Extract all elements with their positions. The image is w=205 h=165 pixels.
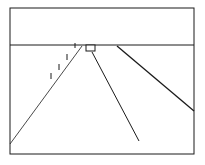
right-road-edge [117, 46, 194, 111]
center-road-line [92, 52, 139, 141]
frame [10, 8, 194, 154]
road-scene-diagram [0, 0, 205, 165]
left-road-edge [10, 46, 82, 144]
distant-vehicle [86, 45, 95, 51]
